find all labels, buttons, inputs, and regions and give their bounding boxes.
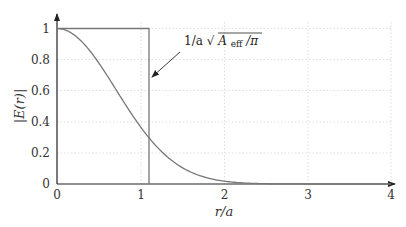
svg-text:0.8: 0.8 — [31, 53, 50, 67]
svg-text:2: 2 — [221, 188, 229, 202]
step-series — [57, 29, 149, 185]
svg-text:3: 3 — [304, 188, 312, 202]
svg-text:0.2: 0.2 — [31, 146, 50, 160]
x-tick-labels: 0 1 2 3 4 — [53, 188, 395, 202]
svg-text:1: 1 — [42, 22, 50, 36]
annotation-label: 1/a √ A eff /π — [184, 34, 259, 50]
gaussian-series — [57, 29, 391, 185]
svg-text:0: 0 — [42, 177, 50, 191]
svg-text:4: 4 — [387, 188, 395, 202]
x-axis-label: r/a — [215, 204, 233, 219]
y-axis-label: |E(r)| — [12, 89, 27, 124]
annotation-arrow — [152, 52, 180, 77]
chart: 1/a √ A eff /π 0 0.2 0.4 0.6 0.8 1 0 1 2… — [0, 0, 406, 227]
svg-text:1: 1 — [137, 188, 145, 202]
svg-text:0.4: 0.4 — [31, 115, 50, 129]
y-tick-labels: 0 0.2 0.4 0.6 0.8 1 — [31, 22, 50, 192]
svg-text:0: 0 — [53, 188, 61, 202]
svg-text:0.6: 0.6 — [31, 84, 50, 98]
